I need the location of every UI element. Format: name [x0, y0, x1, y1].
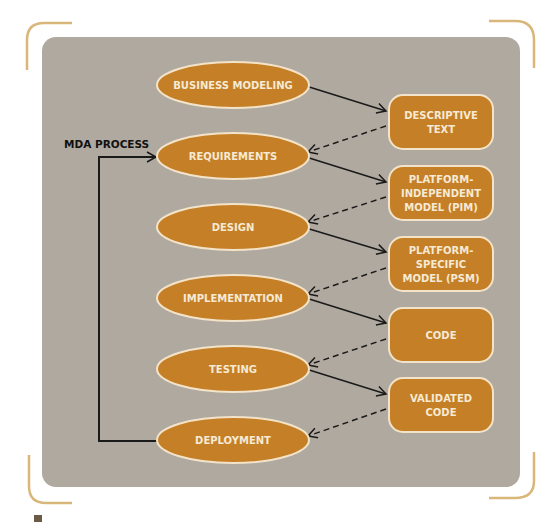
phase-label: TESTING: [209, 364, 257, 375]
artifact-label-line: MODEL (PIM): [404, 202, 478, 213]
artifact-label-line: VALIDATED: [410, 393, 472, 404]
phase-business-modeling: BUSINESS MODELING: [157, 62, 309, 108]
artifact-label-line: PLATFORM-: [409, 245, 474, 256]
artifact-label-line: DESCRIPTIVE: [404, 110, 478, 121]
artifact-code: CODE: [389, 308, 493, 362]
phase-label: IMPLEMENTATION: [183, 293, 283, 304]
phase-implementation: IMPLEMENTATION: [157, 275, 309, 321]
artifact-validated-code: VALIDATED CODE: [389, 378, 493, 432]
artifact-psm: PLATFORM- SPECIFIC MODEL (PSM): [389, 237, 493, 291]
artifact-label-line: SPECIFIC: [416, 259, 466, 270]
phase-deployment: DEPLOYMENT: [157, 417, 309, 463]
phase-label: DESIGN: [212, 222, 255, 233]
page-marker: [34, 515, 42, 522]
artifact-label-line: TEXT: [427, 124, 455, 135]
phase-label: DEPLOYMENT: [195, 435, 271, 446]
side-label: MDA PROCESS: [64, 138, 149, 150]
artifact-pim: PLATFORM- INDEPENDENT MODEL (PIM): [389, 166, 493, 220]
artifact-label-line: INDEPENDENT: [401, 188, 481, 199]
mda-process-diagram: MDA PROCESS BUSINESS MODELING REQUIREMEN…: [0, 0, 558, 522]
artifact-label-line: PLATFORM-: [409, 174, 474, 185]
phase-requirements: REQUIREMENTS: [157, 133, 309, 179]
artifact-label-line: CODE: [426, 330, 457, 341]
phase-label: BUSINESS MODELING: [173, 80, 293, 91]
phase-design: DESIGN: [157, 204, 309, 250]
phase-label: REQUIREMENTS: [189, 151, 278, 162]
artifact-descriptive-text: DESCRIPTIVE TEXT: [389, 95, 493, 149]
phase-testing: TESTING: [157, 346, 309, 392]
artifact-nodes: DESCRIPTIVE TEXT PLATFORM- INDEPENDENT M…: [389, 95, 493, 432]
artifact-label-line: MODEL (PSM): [402, 273, 479, 284]
artifact-label-line: CODE: [426, 407, 457, 418]
